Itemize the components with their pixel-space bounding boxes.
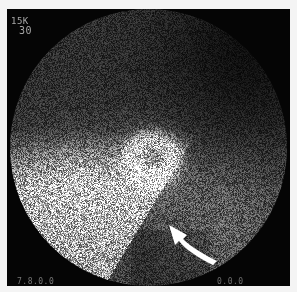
scintigram-image [10, 9, 287, 286]
bottom-left-label: 7.8.0.0 [17, 277, 54, 286]
time-label: 30 [19, 26, 32, 35]
scintigram-frame: 15K 30 7.8.0.0 0.0.0 [7, 9, 290, 286]
field-of-view [10, 9, 287, 286]
bottom-right-label: 0.0.0 [217, 277, 244, 286]
curved-arrow-icon [165, 219, 225, 269]
